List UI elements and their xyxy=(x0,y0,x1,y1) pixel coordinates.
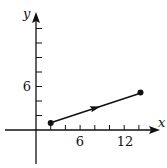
y-axis-label: y xyxy=(22,6,31,21)
segment-end-point xyxy=(138,90,144,96)
x-tick-label-12: 12 xyxy=(117,134,134,149)
segment-start-point xyxy=(48,120,54,126)
coordinate-plane: 6 12 6 x y xyxy=(0,0,167,168)
x-ticks xyxy=(51,125,139,130)
y-tick-label-6: 6 xyxy=(23,79,31,94)
x-tick-label-6: 6 xyxy=(76,134,84,149)
x-axis-label: x xyxy=(158,115,166,130)
y-ticks xyxy=(36,29,42,116)
